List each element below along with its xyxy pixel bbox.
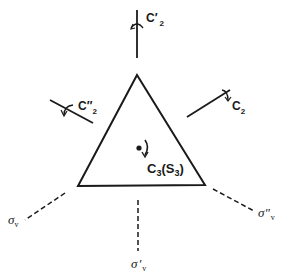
sigma-v-double-prime-plane: σ″v xyxy=(213,189,275,222)
c2-axis: C2 xyxy=(187,90,246,117)
c2-double-prime-axis: C″2 xyxy=(50,99,97,123)
principal-axis-dot xyxy=(136,145,141,150)
c2-prime-label: C′2 xyxy=(146,11,165,28)
sigma-v-plane: σv xyxy=(8,193,65,229)
c2-prime-axis: C′2 xyxy=(131,10,165,58)
sigma-v-label: σv xyxy=(8,212,18,229)
sigma-v-prime-plane: σ′v xyxy=(131,200,146,273)
c2-label: C2 xyxy=(232,99,246,116)
c2-double-prime-label: C″2 xyxy=(78,99,97,116)
sigma-v-prime-label: σ′v xyxy=(131,256,146,273)
c3-label: C3(S3) xyxy=(147,161,184,178)
molecule-triangle xyxy=(78,75,205,186)
sigma-v-double-prime-label: σ″v xyxy=(258,205,275,222)
symmetry-diagram: C3(S3) C′2 C″2 C2 σv xyxy=(0,0,287,280)
